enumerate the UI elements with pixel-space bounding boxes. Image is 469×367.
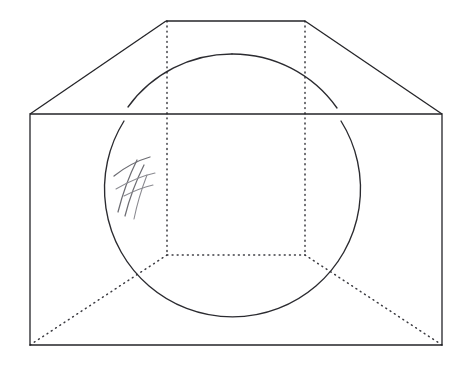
canvas-background (0, 0, 469, 367)
technical-drawing-figure (0, 0, 469, 367)
drawing-canvas (0, 0, 469, 367)
